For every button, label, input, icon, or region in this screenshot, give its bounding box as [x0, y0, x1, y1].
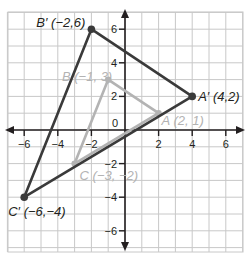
label-b: B (−1, 3)	[62, 69, 112, 84]
x-tick-label: 2	[156, 138, 162, 150]
y-tick-label: 2	[111, 90, 117, 102]
y-axis-down-arrow-icon	[121, 242, 129, 251]
label-c-prime: C′ (−6,−4)	[8, 204, 65, 219]
x-tick-label: −2	[85, 138, 98, 150]
label-b-prime: B′ (−2,6)	[36, 15, 85, 30]
label-c: C (−3, −2)	[80, 168, 139, 183]
image-vertex-bprime	[88, 25, 96, 33]
y-tick-label: 6	[111, 23, 117, 35]
x-tick-label: −4	[52, 138, 65, 150]
x-tick-label: 6	[223, 138, 229, 150]
y-axis-up-arrow-icon	[121, 9, 129, 18]
x-axis-right-arrow-icon	[236, 126, 245, 134]
coordinate-plane: −6−4−2246642−2−4−60 A′ (4,2)B′ (−2,6)C′ …	[0, 0, 249, 259]
x-tick-label: 4	[189, 138, 195, 150]
y-tick-label: −4	[104, 191, 117, 203]
label-a-prime: A′ (4,2)	[197, 89, 239, 104]
origin-label: 0	[112, 117, 118, 129]
image-vertex-aprime	[188, 93, 196, 101]
x-tick-label: −6	[18, 138, 31, 150]
label-a: A (2, 1)	[161, 113, 204, 128]
y-tick-label: −6	[104, 225, 117, 237]
x-axis-left-arrow-icon	[5, 126, 14, 134]
y-tick-label: 4	[111, 57, 117, 69]
image-vertex-cprime	[20, 193, 28, 201]
